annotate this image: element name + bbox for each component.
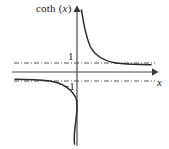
- plot-canvas: [0, 0, 169, 149]
- y-tick-label-minus-one: −1: [63, 81, 75, 92]
- function-label: coth (x): [36, 3, 72, 14]
- function-paren-open: (: [56, 2, 63, 14]
- x-axis-arrowhead: [152, 68, 159, 75]
- y-tick-label-one: 1: [68, 51, 74, 62]
- function-name-text: coth: [36, 2, 56, 14]
- y-axis-arrowhead: [73, 6, 80, 13]
- function-paren-close: ): [68, 2, 72, 14]
- x-axis-label: x: [157, 77, 162, 88]
- curve-branch-positive-x: [82, 10, 152, 65]
- coth-function-plot: coth (x) 1 −1 x: [0, 0, 169, 149]
